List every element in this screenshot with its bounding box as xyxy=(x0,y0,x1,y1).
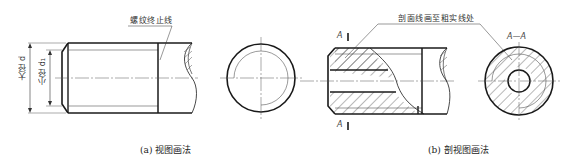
view-b-section xyxy=(300,24,512,130)
section-mark-bottom: A xyxy=(337,120,342,129)
thread-end-line-callout: 螺纹终止线 xyxy=(130,14,173,25)
section-mark-top: A xyxy=(337,31,342,40)
hatch-callout: 剖面线画至粗实线处 xyxy=(398,12,475,23)
major-diameter-label: 大径 d xyxy=(17,56,28,80)
view-a-end xyxy=(220,37,302,119)
minor-diameter-label: 小径 d₁ xyxy=(37,58,48,85)
view-b-section-aa xyxy=(478,42,560,120)
caption-b: (b) 剖视图画法 xyxy=(428,143,489,156)
section-title-aa: A—A xyxy=(507,32,526,41)
thread-drawing xyxy=(0,0,575,165)
caption-a: (a) 视图画法 xyxy=(140,143,191,156)
view-a-side xyxy=(28,26,198,113)
